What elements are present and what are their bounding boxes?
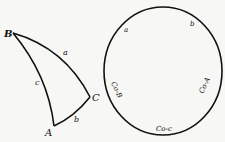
side-a-arc xyxy=(13,33,90,97)
vertex-C-label: C xyxy=(92,92,100,103)
circle-part-a: a xyxy=(124,26,128,34)
spherical-triangle: B C A a c b xyxy=(3,28,100,138)
napier-diagram: B C A a c b a b Co-A Co-B Co-c xyxy=(0,0,225,142)
side-b-label: b xyxy=(74,115,79,124)
vertex-A-label: A xyxy=(44,127,52,138)
side-b-arc xyxy=(54,97,90,126)
side-c-label: c xyxy=(35,78,40,87)
vertex-B-label: B xyxy=(3,28,12,39)
circle-part-co-A: Co-A xyxy=(198,76,212,95)
circle-outline xyxy=(104,7,222,135)
diagram-svg: B C A a c b a b Co-A Co-B Co-c xyxy=(0,0,225,142)
napier-circle: a b Co-A Co-B Co-c xyxy=(104,7,222,135)
side-c-arc xyxy=(13,33,54,126)
circle-part-co-c: Co-c xyxy=(156,125,172,133)
circle-part-co-B: Co-B xyxy=(109,80,123,99)
side-a-label: a xyxy=(63,48,68,57)
circle-part-b: b xyxy=(190,20,195,28)
